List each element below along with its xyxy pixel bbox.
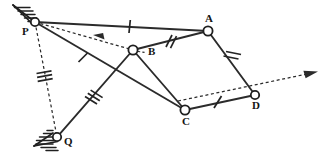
- link-b-c: [133, 50, 185, 110]
- tick-mark: [79, 53, 88, 62]
- joint-label-p: P: [22, 26, 29, 37]
- tick-mark: [37, 71, 52, 74]
- joint-p[interactable]: [31, 18, 39, 26]
- link-a-d: [208, 31, 255, 95]
- joint-c[interactable]: [180, 105, 189, 114]
- joint-label-a: A: [205, 13, 213, 24]
- tick-mark: [38, 79, 53, 82]
- link-p-c: [35, 22, 185, 110]
- link-p-a: [35, 22, 208, 31]
- linkage-diagram: P Q A B C D: [0, 0, 332, 163]
- tick-mark: [224, 56, 239, 59]
- joint-q[interactable]: [53, 133, 61, 141]
- joint-label-q: Q: [64, 136, 73, 147]
- joint-a[interactable]: [203, 26, 212, 35]
- joint-label-c: C: [182, 116, 190, 127]
- diagram-canvas: [0, 0, 332, 163]
- joint-b[interactable]: [128, 45, 137, 54]
- joints-group: [31, 18, 259, 141]
- joint-label-b: B: [148, 46, 156, 57]
- guide-leader-b-label: [138, 52, 146, 53]
- links-group: [35, 22, 255, 137]
- arrow-head-cd-extension: [303, 71, 318, 78]
- tick-mark: [37, 75, 52, 78]
- joint-d[interactable]: [251, 91, 259, 99]
- tick-mark: [129, 20, 130, 33]
- tick-mark: [226, 52, 241, 55]
- tick-group-pq-guide: [37, 71, 53, 82]
- joint-label-d: D: [252, 100, 260, 111]
